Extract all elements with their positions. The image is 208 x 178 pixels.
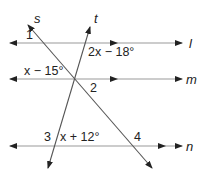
- line-n: n: [10, 139, 193, 154]
- line-label-m: m: [186, 72, 197, 87]
- line-label-t: t: [94, 11, 99, 26]
- angle-expr-bottom: x + 12°: [60, 130, 99, 144]
- angle-expr-mid: x − 15°: [24, 64, 63, 78]
- angle-1-label: 1: [26, 28, 33, 42]
- geometry-diagram: l m n s t 1 2x − 18° x − 15° 2 3 x + 12°…: [0, 0, 208, 178]
- line-label-s: s: [34, 11, 41, 26]
- line-label-n: n: [186, 139, 193, 154]
- angle-3-label: 3: [44, 130, 51, 144]
- line-label-l: l: [189, 36, 193, 51]
- parallel-arrow-icon: [110, 76, 118, 82]
- angle-expr-top: 2x − 18°: [88, 45, 134, 59]
- parallel-arrow-icon: [158, 143, 166, 149]
- angle-4-label: 4: [134, 130, 141, 144]
- angle-2-label: 2: [90, 81, 97, 95]
